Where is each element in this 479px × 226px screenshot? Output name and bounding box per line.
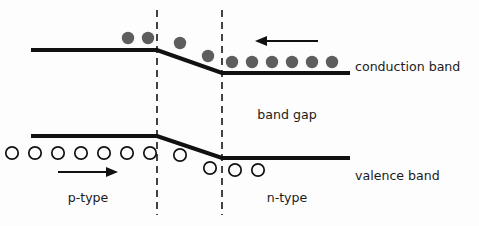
hole-marker [75, 147, 87, 159]
hole-marker [29, 147, 41, 159]
electron-marker [306, 56, 318, 68]
electron-marker [326, 56, 338, 68]
hole-flow-arrow-head [106, 167, 118, 177]
electron-flow-arrow [255, 36, 318, 46]
hole-marker [6, 147, 18, 159]
hole-marker [229, 164, 241, 176]
hole-marker [204, 162, 216, 174]
hole-marker [174, 149, 186, 161]
electron-marker [266, 56, 278, 68]
figure-canvas: conduction band valence band band gap p-… [0, 0, 479, 226]
electron-marker [142, 32, 154, 44]
valence-band-label: valence band [355, 168, 440, 183]
hole-marker [252, 164, 264, 176]
hole-marker [98, 147, 110, 159]
electron-marker [246, 56, 258, 68]
conduction-band-label: conduction band [355, 59, 460, 74]
electron-marker [202, 50, 214, 62]
hole-marker [52, 147, 64, 159]
electron-marker [174, 37, 186, 49]
p-type-region-label: p-type [68, 190, 109, 205]
electron-flow-arrow-head [255, 36, 267, 46]
band-gap-label: band gap [257, 107, 316, 122]
n-type-region-label: n-type [267, 190, 308, 205]
electron-marker [226, 56, 238, 68]
band-diagram: conduction band valence band band gap p-… [0, 0, 479, 226]
electron-marker [122, 32, 134, 44]
hole-marker [121, 147, 133, 159]
hole-marker [144, 147, 156, 159]
hole-group [6, 147, 264, 176]
hole-flow-arrow [58, 167, 118, 177]
conduction-band-line [31, 50, 350, 73]
electron-marker [286, 56, 298, 68]
